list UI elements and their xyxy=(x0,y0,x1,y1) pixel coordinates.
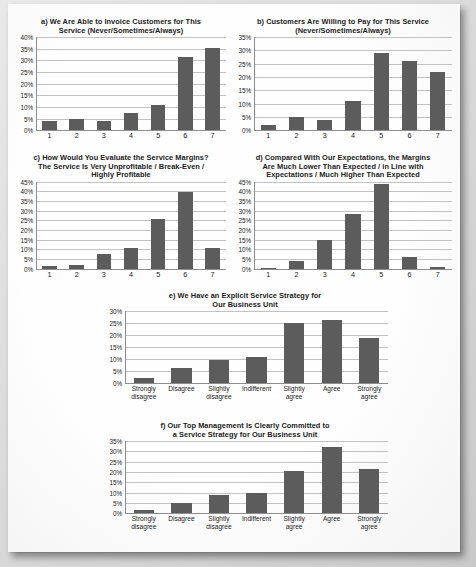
plot-area-e: 0%5%10%15%20%25%30%Strongly disagreeDisa… xyxy=(100,311,390,401)
bar-slot xyxy=(63,182,90,269)
gridline xyxy=(125,513,388,514)
bar-slot xyxy=(90,37,117,130)
bar-slot xyxy=(275,441,313,513)
x-axis-tick-label: 6 xyxy=(395,271,423,279)
x-axis-labels: 1234567 xyxy=(36,132,226,140)
bar xyxy=(42,266,57,269)
bar-slot xyxy=(282,182,310,269)
y-axis-tick-label: 30% xyxy=(232,47,251,54)
y-axis-tick-label: 0% xyxy=(100,380,122,387)
y-axis-tick-label: 45% xyxy=(14,178,33,185)
x-axis-tick-label: 4 xyxy=(117,132,144,140)
y-axis-tick-label: 0% xyxy=(100,510,122,517)
bar xyxy=(345,214,360,269)
x-axis-tick-label: 5 xyxy=(367,271,395,279)
x-axis-tick-label: 1 xyxy=(254,132,282,140)
bar xyxy=(171,368,191,383)
bar xyxy=(209,495,229,513)
x-axis-tick-label: 4 xyxy=(339,271,367,279)
bar-slot xyxy=(145,37,172,130)
bar-slot xyxy=(125,441,163,513)
y-axis-tick-label: 10% xyxy=(100,356,122,363)
x-axis-tick-label: Indifferent xyxy=(238,385,276,400)
y-axis-tick-label: 0% xyxy=(232,127,251,134)
x-axis-tick-label: 3 xyxy=(311,132,339,140)
bar-slot xyxy=(117,182,144,269)
y-axis-tick-label: 5% xyxy=(232,113,251,120)
x-axis-tick-label: Agree xyxy=(313,385,351,400)
bar-slot xyxy=(313,441,351,513)
y-axis-tick-label: 0% xyxy=(232,265,251,272)
x-axis-labels: Strongly disagreeDisagreeSlightly disagr… xyxy=(125,515,388,530)
bar xyxy=(289,261,304,269)
x-axis-tick-label: 2 xyxy=(282,271,310,279)
bar-slot xyxy=(172,37,199,130)
y-axis-tick-label: 25% xyxy=(100,320,122,327)
y-axis-tick-label: 5% xyxy=(100,368,122,375)
x-axis-tick-label: Agree xyxy=(313,515,351,530)
bar-slot xyxy=(254,182,282,269)
bar-series xyxy=(125,441,388,513)
x-axis-tick-label: 3 xyxy=(90,132,117,140)
y-axis-tick-label: 5% xyxy=(100,499,122,506)
y-axis-tick-label: 30% xyxy=(14,207,33,214)
bar-slot xyxy=(395,182,423,269)
bar-slot xyxy=(339,37,367,130)
chart-title-c: c) How Would You Evaluate the Service Ma… xyxy=(14,154,228,180)
chart-panel-f: f) Our Top Management Is Clearly Committ… xyxy=(100,422,390,550)
y-axis-tick-label: 30% xyxy=(232,207,251,214)
bar-slot xyxy=(90,182,117,269)
bar-slot xyxy=(238,311,276,383)
bar-slot xyxy=(163,441,201,513)
bar xyxy=(124,113,139,130)
bar xyxy=(374,53,389,130)
y-axis-tick-label: 10% xyxy=(232,100,251,107)
x-axis-tick-label: 2 xyxy=(63,271,90,279)
bar xyxy=(151,105,166,131)
bar xyxy=(178,57,193,130)
bar-slot xyxy=(145,182,172,269)
bar-slot xyxy=(125,311,163,383)
scanned-page: a) We Are Able to Invoice Customers for … xyxy=(8,4,460,552)
plot-area-a: 0%5%10%15%20%25%30%35%40%1234567 xyxy=(14,37,228,141)
bar-slot xyxy=(36,182,63,269)
x-axis-tick-label: Slightly disagree xyxy=(200,515,238,530)
bar xyxy=(97,254,112,269)
x-axis-tick-label: Indifferent xyxy=(238,515,276,530)
x-axis-tick-label: Strongly agree xyxy=(350,515,388,530)
bar-slot xyxy=(199,182,226,269)
chart-title-e: e) We Have an Explicit Service Strategy … xyxy=(100,292,390,309)
bar-slot xyxy=(63,37,90,130)
bar xyxy=(205,48,220,131)
y-axis-tick-label: 40% xyxy=(14,34,33,41)
y-axis-tick-label: 15% xyxy=(100,479,122,486)
bar xyxy=(317,240,332,269)
chart-panel-d: d) Compared With Our Expectations, the M… xyxy=(232,154,454,288)
bar xyxy=(261,268,276,269)
x-axis-tick-label: 4 xyxy=(339,132,367,140)
bar-slot xyxy=(254,37,282,130)
x-axis-labels: 1234567 xyxy=(254,132,452,140)
y-axis-tick-label: 30% xyxy=(100,448,122,455)
bar-series xyxy=(36,37,226,130)
y-axis-tick-label: 25% xyxy=(100,458,122,465)
y-axis-tick-label: 30% xyxy=(100,308,122,315)
bar xyxy=(402,257,417,269)
bar xyxy=(209,360,229,383)
chart-panel-a: a) We Are Able to Invoice Customers for … xyxy=(14,18,228,150)
x-axis-tick-label: 2 xyxy=(282,132,310,140)
x-axis-tick-label: 7 xyxy=(424,271,452,279)
y-axis-tick-label: 25% xyxy=(232,217,251,224)
bar-slot xyxy=(367,182,395,269)
bar xyxy=(261,125,276,130)
bar-slot xyxy=(238,441,276,513)
x-axis-labels: 1234567 xyxy=(254,271,452,279)
gridline xyxy=(125,383,388,384)
x-axis-tick-label: 7 xyxy=(424,132,452,140)
bar xyxy=(359,469,379,513)
bar xyxy=(42,121,57,130)
bar xyxy=(134,510,154,513)
bar-slot xyxy=(395,37,423,130)
bar-slot xyxy=(117,37,144,130)
bar xyxy=(124,248,139,268)
